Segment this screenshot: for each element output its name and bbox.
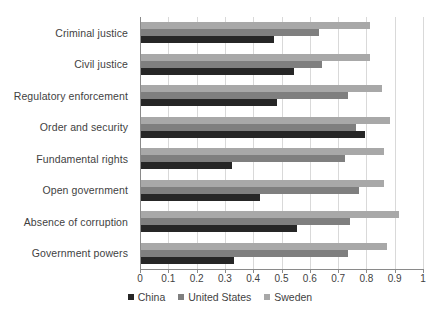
legend-label: China [138,291,165,303]
bar-sweden [141,211,399,218]
x-axis-tick-label: 1 [420,273,426,284]
bar-row [141,180,424,187]
bar-chart: Criminal justiceCivil justiceRegulatory … [0,0,440,313]
x-axis-tick-label: 0.2 [190,273,204,284]
category-label: Absence of corruption [0,206,134,238]
bar-row [141,36,424,43]
bar-sweden [141,243,387,250]
bar-united-states [141,250,348,257]
bar-row [141,99,424,106]
bar-united-states [141,61,322,68]
x-axis-tick-label: 0.8 [359,273,373,284]
bar-row [141,257,424,264]
bar-group [141,175,424,207]
bar-group [141,80,424,112]
bar-group [141,49,424,81]
bar-china [141,131,365,138]
bar-row [141,148,424,155]
category-label: Criminal justice [0,17,134,49]
bar-sweden [141,117,390,124]
bar-united-states [141,29,319,36]
bar-row [141,250,424,257]
bar-group [141,206,424,238]
bar-china [141,225,297,232]
category-label: Fundamental rights [0,143,134,175]
bar-row [141,211,424,218]
bar-groups [141,17,424,269]
bar-row [141,54,424,61]
bar-china [141,68,294,75]
bar-china [141,162,232,169]
category-label: Open government [0,175,134,207]
x-axis-tick-label: 0.5 [275,273,289,284]
bar-china [141,257,234,264]
bar-row [141,68,424,75]
bar-sweden [141,180,384,187]
legend-item[interactable]: China [128,291,165,303]
category-label: Government powers [0,238,134,270]
category-label: Order and security [0,112,134,144]
legend-swatch-icon [128,294,134,300]
legend-item[interactable]: Sweden [264,291,312,303]
x-axis-tick-labels: 00.10.20.30.40.50.60.70.80.91 [140,273,424,287]
bar-united-states [141,218,350,225]
legend-swatch-icon [264,294,270,300]
bar-group [141,112,424,144]
bar-sweden [141,22,370,29]
bar-china [141,194,260,201]
bar-row [141,92,424,99]
x-axis-tick-label: 0.1 [161,273,175,284]
x-axis-tick-label: 0.6 [303,273,317,284]
bar-row [141,162,424,169]
bar-group [141,238,424,270]
bar-row [141,187,424,194]
bar-row [141,131,424,138]
bar-row [141,29,424,36]
bar-row [141,218,424,225]
bar-united-states [141,124,356,131]
category-label: Civil justice [0,49,134,81]
bar-row [141,155,424,162]
bar-row [141,117,424,124]
bar-sweden [141,54,370,61]
x-axis-tick-label: 0.3 [218,273,232,284]
bar-row [141,225,424,232]
chart-legend: ChinaUnited StatesSweden [0,291,440,303]
bar-united-states [141,155,345,162]
bar-row [141,194,424,201]
bar-group [141,17,424,49]
bar-sweden [141,148,384,155]
legend-label: United States [188,291,251,303]
x-axis-tick-label: 0.9 [388,273,402,284]
x-axis-tick-label: 0 [137,273,143,284]
plot-area [140,17,424,269]
x-axis-tick-label: 0.7 [331,273,345,284]
bar-row [141,124,424,131]
legend-item[interactable]: United States [178,291,251,303]
bar-group [141,143,424,175]
bar-china [141,36,274,43]
category-axis-labels: Criminal justiceCivil justiceRegulatory … [0,17,134,269]
bar-row [141,243,424,250]
bar-sweden [141,85,382,92]
category-label: Regulatory enforcement [0,80,134,112]
bar-united-states [141,92,348,99]
bar-united-states [141,187,359,194]
x-axis-tick-label: 0.4 [246,273,260,284]
legend-label: Sweden [274,291,312,303]
bar-china [141,99,277,106]
legend-swatch-icon [178,294,184,300]
bar-row [141,22,424,29]
bar-row [141,85,424,92]
bar-row [141,61,424,68]
